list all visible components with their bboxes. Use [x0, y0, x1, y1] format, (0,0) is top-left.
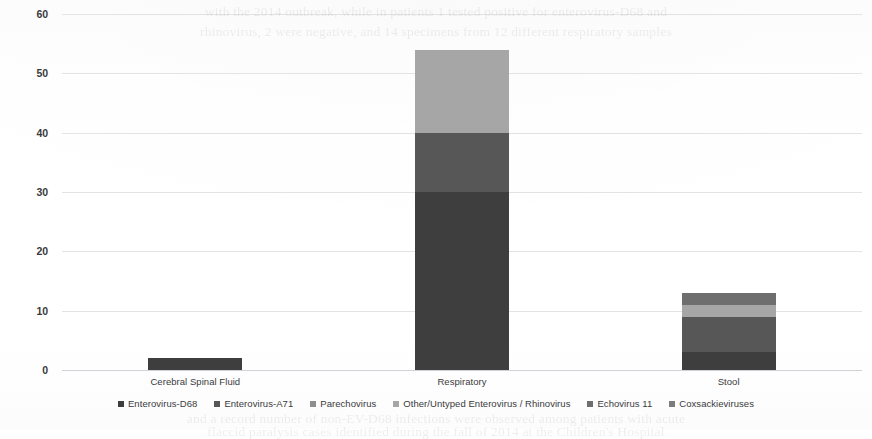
bar-segment[interactable] — [682, 317, 776, 353]
y-axis-tick-label: 30 — [2, 186, 48, 198]
bar-segment[interactable] — [415, 50, 509, 133]
legend-swatch-icon — [214, 401, 220, 407]
bar-segment[interactable] — [682, 293, 776, 305]
legend-label: Parechovirus — [320, 399, 376, 409]
legend-label: Enterovirus-A71 — [224, 399, 293, 409]
legend-item[interactable]: Other/Untyped Enterovirus / Rhinovirus — [393, 399, 570, 409]
y-axis-tick-label: 50 — [2, 67, 48, 79]
bar-respiratory[interactable] — [415, 50, 509, 370]
bar-segment[interactable] — [415, 192, 509, 370]
bar-stool[interactable] — [682, 293, 776, 370]
legend-swatch-icon — [310, 401, 316, 407]
bar-segment[interactable] — [148, 358, 242, 370]
x-axis-tick-label: Stool — [718, 376, 740, 387]
axis-baseline — [62, 370, 862, 371]
bar-segment[interactable] — [415, 133, 509, 192]
legend-label: Echovirus 11 — [597, 399, 652, 409]
legend-item[interactable]: Enterovirus-D68 — [118, 399, 197, 409]
plot-area: 0102030405060 — [62, 14, 862, 370]
legend-item[interactable]: Parechovirus — [310, 399, 376, 409]
legend-item[interactable]: Coxsackieviruses — [669, 399, 754, 409]
bar-segment[interactable] — [682, 305, 776, 317]
legend-label: Coxsackieviruses — [679, 399, 754, 409]
legend-label: Other/Untyped Enterovirus / Rhinovirus — [403, 399, 570, 409]
y-axis-tick-label: 0 — [2, 364, 48, 376]
legend-swatch-icon — [669, 401, 675, 407]
legend-item[interactable]: Echovirus 11 — [587, 399, 652, 409]
chart-legend: Enterovirus-D68Enterovirus-A71Parechovir… — [0, 399, 872, 409]
bar-cerebral-spinal-fluid[interactable] — [148, 358, 242, 370]
y-axis-tick-label: 10 — [2, 305, 48, 317]
gridline — [62, 14, 862, 15]
y-axis-tick-label: 60 — [2, 8, 48, 20]
y-axis-tick-label: 20 — [2, 245, 48, 257]
legend-label: Enterovirus-D68 — [128, 399, 197, 409]
y-axis-tick-label: 40 — [2, 127, 48, 139]
legend-item[interactable]: Enterovirus-A71 — [214, 399, 293, 409]
x-axis-tick-label: Cerebral Spinal Fluid — [150, 376, 240, 387]
bar-segment[interactable] — [682, 352, 776, 370]
legend-swatch-icon — [587, 401, 593, 407]
x-axis-tick-label: Respiratory — [437, 376, 486, 387]
legend-swatch-icon — [393, 401, 399, 407]
legend-swatch-icon — [118, 401, 124, 407]
